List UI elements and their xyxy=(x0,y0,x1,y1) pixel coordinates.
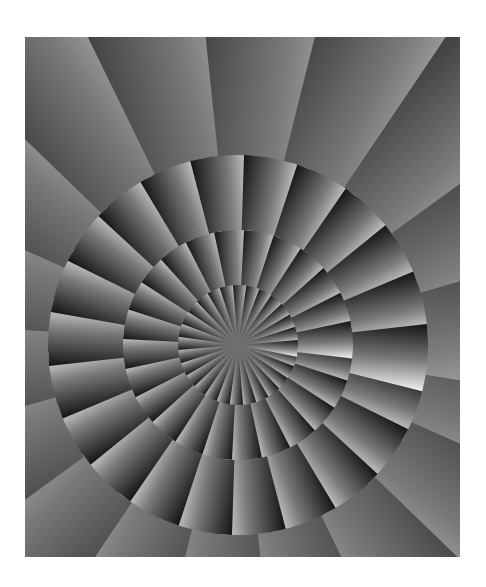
op-art-image xyxy=(25,37,460,557)
spiral-fan-pattern xyxy=(25,37,460,557)
fan-ring-4 xyxy=(178,285,298,405)
